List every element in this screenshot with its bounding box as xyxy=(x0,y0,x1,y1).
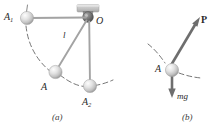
bob-A xyxy=(49,65,62,78)
weight-vector-mg xyxy=(168,74,175,98)
label-length-l: l xyxy=(63,31,66,40)
label-A2: A2 xyxy=(82,97,91,109)
dashed-arc-b-lower xyxy=(179,73,201,78)
label-O: O xyxy=(96,16,103,26)
caption-panel-b: (b) xyxy=(182,113,193,122)
ceiling-bracket-icon xyxy=(77,5,99,13)
force-vector-P xyxy=(170,17,200,67)
cord-O-to-A xyxy=(56,21,87,72)
physics-figure: A1 O l A A2 (a) A P mg (b) xyxy=(0,0,216,138)
label-A2-subscript: 2 xyxy=(88,101,91,108)
label-force-mg: mg xyxy=(177,92,188,101)
bob-A2 xyxy=(83,79,96,92)
cord-O-to-A2 xyxy=(89,22,90,86)
dashed-swing-arc-right xyxy=(95,80,113,86)
caption-panel-a: (a) xyxy=(52,113,63,122)
dashed-arc-b-upper xyxy=(148,44,165,63)
label-A-panel-b: A xyxy=(155,64,161,74)
cord-O-to-A1 xyxy=(29,18,86,19)
bob-A1 xyxy=(20,11,33,24)
tangent-tick-icon xyxy=(27,5,28,12)
label-A1-subscript: 1 xyxy=(10,16,13,23)
bob-A-panel-b xyxy=(165,63,178,76)
dashed-swing-arc-mid xyxy=(60,75,85,87)
label-A1: A1 xyxy=(4,12,13,24)
label-force-P: P xyxy=(201,15,207,25)
dashed-swing-arc-left xyxy=(26,26,51,72)
label-A: A xyxy=(41,82,47,92)
